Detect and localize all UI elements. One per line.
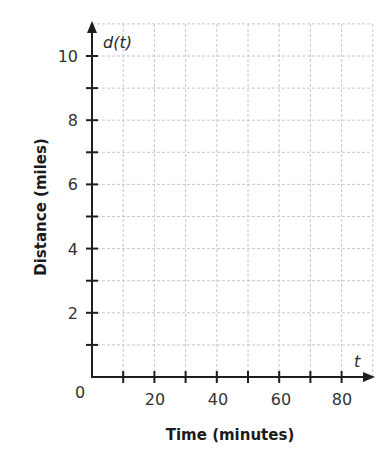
- y-tick-label: 6: [68, 175, 78, 194]
- y-tick-label: 4: [68, 240, 78, 259]
- y-tick-label: 8: [68, 111, 78, 130]
- origin-label: 0: [75, 383, 85, 402]
- x-tick-label: 40: [208, 390, 228, 409]
- distance-time-graph: d(t) t 0 20 40 60 80 2 4 6 8 10 Time (mi…: [0, 0, 386, 473]
- grid: [92, 24, 373, 377]
- x-tick-label: 20: [145, 390, 165, 409]
- y-axis-title: Distance (miles): [32, 138, 50, 276]
- x-axis-arrow-icon: [363, 372, 375, 382]
- x-tick-label: 60: [271, 390, 291, 409]
- x-variable-label: t: [354, 352, 361, 371]
- y-tick-label: 10: [58, 47, 78, 66]
- tick-marks: [86, 56, 342, 383]
- x-tick-labels: 20 40 60 80: [145, 390, 352, 409]
- x-axis-title: Time (minutes): [166, 426, 295, 444]
- y-tick-label: 2: [68, 304, 78, 323]
- y-variable-label: d(t): [103, 33, 132, 52]
- y-axis-arrow-icon: [87, 21, 97, 33]
- y-tick-labels: 2 4 6 8 10: [58, 47, 78, 323]
- x-tick-label: 80: [332, 390, 352, 409]
